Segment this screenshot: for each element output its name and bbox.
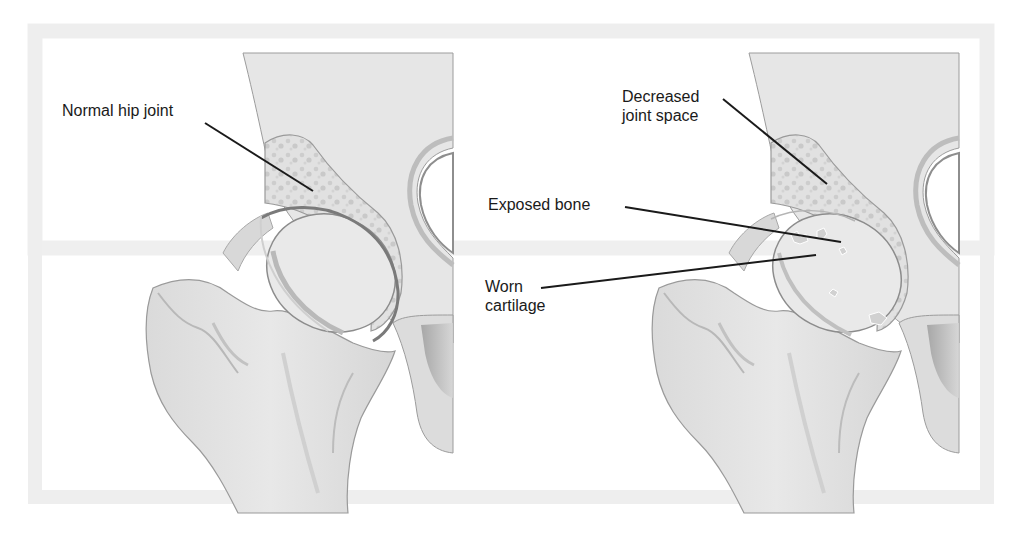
normal-hip-panel bbox=[146, 53, 453, 513]
label-worn-cartilage: Worn cartilage bbox=[485, 277, 545, 315]
hip-joint-illustration bbox=[0, 0, 1022, 537]
label-decreased-joint-space: Decreased joint space bbox=[622, 87, 699, 125]
label-exposed-bone: Exposed bone bbox=[488, 195, 590, 214]
label-normal-hip-joint: Normal hip joint bbox=[62, 101, 173, 120]
